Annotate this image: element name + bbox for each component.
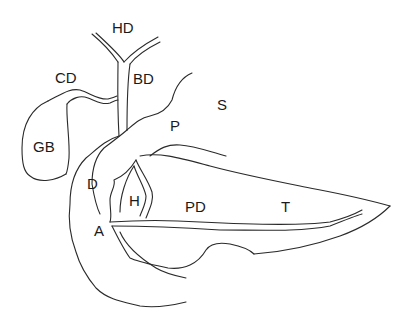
label-hepatic-duct: HD — [112, 19, 134, 36]
label-cystic-duct: CD — [55, 69, 77, 86]
label-pancreatic-duct: PD — [185, 198, 206, 215]
label-head: H — [129, 192, 140, 209]
label-pylorus: P — [170, 117, 180, 134]
label-ampulla: A — [94, 222, 104, 239]
label-bile-duct: BD — [133, 70, 154, 87]
label-gallbladder: GB — [33, 138, 55, 155]
label-tail: T — [281, 198, 290, 215]
label-duodenum: D — [87, 175, 98, 192]
label-stomach: S — [217, 96, 227, 113]
